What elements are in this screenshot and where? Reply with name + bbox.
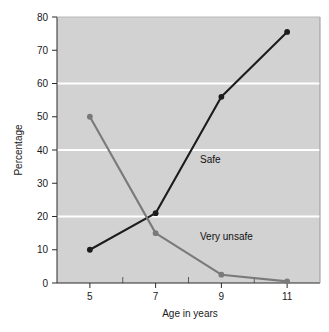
y-axis-tick-label: 80 [37, 12, 49, 23]
y-axis-tick-label: 10 [37, 244, 49, 255]
data-point-marker [153, 230, 159, 236]
data-point-marker [284, 29, 290, 35]
data-point-marker [218, 94, 224, 100]
y-axis-tick-label: 20 [37, 211, 49, 222]
y-axis-tick-label: 0 [42, 278, 48, 289]
data-point-marker [153, 210, 159, 216]
y-axis-title: Percentage [13, 124, 24, 176]
x-axis-tick-label: 7 [153, 291, 159, 302]
x-axis-tick-label: 11 [282, 291, 293, 302]
x-axis-title: Age in years [162, 308, 218, 319]
y-axis-tick-label: 30 [37, 178, 49, 189]
data-point-marker [87, 114, 93, 120]
y-axis-tick-label: 60 [37, 78, 49, 89]
series-annotation-very-unsafe: Very unsafe [200, 231, 253, 242]
y-axis-tick-label: 50 [37, 111, 49, 122]
x-axis-tick-label: 5 [87, 291, 93, 302]
data-point-marker [87, 247, 93, 253]
series-annotation-safe: Safe [200, 154, 221, 165]
x-axis-tick-label: 9 [219, 291, 225, 302]
data-point-marker [218, 272, 224, 278]
line-chart: 01020304050607080 57911 SafeVery unsafe … [0, 0, 329, 332]
chart-canvas: 01020304050607080 57911 SafeVery unsafe … [0, 0, 329, 332]
data-point-marker [284, 278, 290, 284]
y-axis-tick-label: 40 [37, 145, 49, 156]
y-axis-tick-labels-group: 01020304050607080 [37, 12, 49, 289]
y-axis-tick-label: 70 [37, 45, 49, 56]
